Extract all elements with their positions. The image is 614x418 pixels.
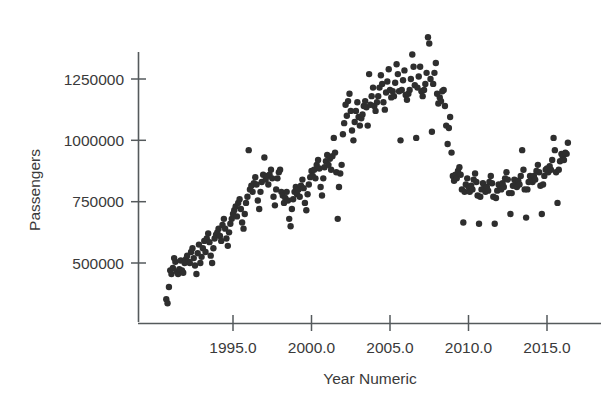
data-point xyxy=(386,66,392,72)
data-point xyxy=(166,284,172,290)
data-point xyxy=(539,211,545,217)
data-point xyxy=(444,141,450,147)
data-point xyxy=(401,67,407,73)
data-point xyxy=(317,184,323,190)
data-point xyxy=(400,77,406,83)
data-point xyxy=(335,216,341,222)
data-point xyxy=(469,186,475,192)
data-point xyxy=(392,79,398,85)
data-point xyxy=(440,87,446,93)
data-point xyxy=(357,122,363,128)
data-point xyxy=(366,71,372,77)
data-point xyxy=(485,187,491,193)
data-point xyxy=(265,181,271,187)
data-point xyxy=(375,93,381,99)
data-point xyxy=(408,76,414,82)
data-point xyxy=(164,300,170,306)
data-point xyxy=(261,154,267,160)
data-point xyxy=(239,219,245,225)
data-point xyxy=(561,157,567,163)
data-point xyxy=(350,137,356,143)
data-point xyxy=(349,127,355,133)
data-point xyxy=(359,111,365,117)
data-point xyxy=(532,176,538,182)
data-point xyxy=(315,157,321,163)
data-point xyxy=(340,131,346,137)
data-point xyxy=(240,225,246,231)
data-point xyxy=(277,167,283,173)
data-point xyxy=(345,98,351,104)
data-point xyxy=(205,230,211,236)
x-axis-tick-label: 2015.0 xyxy=(523,339,571,356)
data-point xyxy=(332,149,338,155)
data-point xyxy=(406,87,412,93)
data-point xyxy=(299,176,305,182)
data-point xyxy=(257,189,263,195)
y-axis-tick-label: 1000000 xyxy=(64,132,125,149)
y-axis-tick-label: 1250000 xyxy=(64,71,125,88)
plot-canvas: 50000075000010000001250000 1995.02000.02… xyxy=(0,0,614,418)
data-point xyxy=(306,181,312,187)
data-point xyxy=(507,211,513,217)
data-point xyxy=(397,137,403,143)
data-point xyxy=(180,270,186,276)
data-point xyxy=(337,170,343,176)
data-point xyxy=(550,135,556,141)
data-point xyxy=(283,189,289,195)
data-point xyxy=(552,147,558,153)
data-point xyxy=(368,93,374,99)
data-point xyxy=(446,125,452,131)
data-point xyxy=(516,181,522,187)
data-point xyxy=(419,93,425,99)
data-point xyxy=(312,175,318,181)
data-point xyxy=(395,71,401,77)
data-point xyxy=(270,194,276,200)
data-point xyxy=(554,200,560,206)
data-point xyxy=(297,194,303,200)
data-point xyxy=(304,191,310,197)
data-point xyxy=(302,200,308,206)
data-point xyxy=(393,61,399,67)
data-point xyxy=(536,169,542,175)
data-point xyxy=(209,260,215,266)
data-point xyxy=(501,184,507,190)
data-point xyxy=(372,108,378,114)
data-point xyxy=(476,221,482,227)
data-point xyxy=(226,229,232,235)
data-point xyxy=(286,216,292,222)
y-axis-tick-label: 750000 xyxy=(72,193,124,210)
data-point xyxy=(457,171,463,177)
data-point xyxy=(563,151,569,157)
data-point xyxy=(303,207,309,213)
data-point xyxy=(417,64,423,70)
data-point xyxy=(374,99,380,105)
data-point xyxy=(391,93,397,99)
data-point xyxy=(423,70,429,76)
data-point xyxy=(524,186,530,192)
data-point xyxy=(565,140,571,146)
data-point xyxy=(189,245,195,251)
data-point xyxy=(488,173,494,179)
data-point xyxy=(448,149,454,155)
data-point xyxy=(410,64,416,70)
x-axis-tick-label: 2010.0 xyxy=(445,339,493,356)
data-point xyxy=(210,245,216,251)
data-point xyxy=(421,87,427,93)
data-point xyxy=(549,157,555,163)
data-point xyxy=(456,164,462,170)
data-point xyxy=(252,174,258,180)
data-point xyxy=(416,73,422,79)
data-point xyxy=(341,120,347,126)
data-point xyxy=(242,211,248,217)
data-point xyxy=(380,99,386,105)
data-point xyxy=(246,147,252,153)
data-point xyxy=(193,271,199,277)
data-point xyxy=(442,103,448,109)
data-point xyxy=(346,91,352,97)
data-point xyxy=(320,175,326,181)
data-point xyxy=(353,108,359,114)
data-point xyxy=(556,167,562,173)
data-point xyxy=(223,235,229,241)
data-point xyxy=(477,194,483,200)
data-point xyxy=(255,197,261,203)
